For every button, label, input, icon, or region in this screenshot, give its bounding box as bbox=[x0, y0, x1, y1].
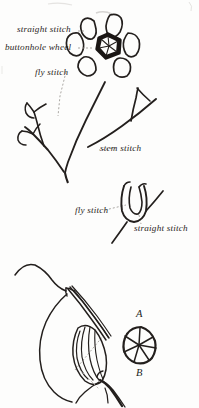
label-marker-a: A bbox=[136, 309, 143, 320]
loop-outer bbox=[121, 186, 146, 222]
thread-tail bbox=[15, 264, 66, 291]
label-straight-stitch-top: straight stitch bbox=[17, 25, 71, 34]
petal bbox=[123, 33, 139, 57]
petal bbox=[78, 57, 96, 76]
needle-shaft-a bbox=[68, 289, 106, 340]
straight-stitch-tail bbox=[112, 222, 127, 243]
stitch-diagram-page: straight stitch buttonhole wheel fly sti… bbox=[0, 0, 199, 408]
label-fly-stitch-top: fly stitch bbox=[35, 68, 68, 77]
label-straight-stitch-mid: straight stitch bbox=[134, 224, 188, 233]
fly-arm2-loop bbox=[18, 131, 26, 145]
label-fly-stitch-mid: fly stitch bbox=[75, 206, 108, 215]
stem-continuation bbox=[65, 173, 68, 183]
fly-arm-left bbox=[27, 103, 34, 112]
buttonhole-wheel-flower bbox=[66, 14, 139, 77]
branch-fork bbox=[137, 88, 150, 101]
label-marker-b: B bbox=[136, 368, 143, 379]
petal bbox=[81, 18, 96, 39]
scan-artifacts bbox=[2, 2, 192, 74]
stitch-illustration bbox=[0, 0, 199, 408]
thread-loop-left bbox=[40, 294, 72, 402]
chain-line-2 bbox=[81, 327, 93, 380]
needle-lower-shaft bbox=[100, 380, 122, 406]
needle-and-thread-detail bbox=[15, 264, 125, 407]
stem-stitch-branch bbox=[65, 82, 156, 173]
fly-stitch-sprig bbox=[18, 103, 64, 172]
fly-stitch-loop-detail bbox=[112, 182, 163, 243]
loop-cap-left bbox=[124, 182, 130, 186]
label-stem-stitch: stem stitch bbox=[100, 144, 141, 153]
buttonhole-wheel-center bbox=[97, 34, 120, 58]
loop-inner bbox=[129, 187, 142, 214]
thread-lower-drop bbox=[105, 388, 108, 403]
chain-line-3 bbox=[89, 327, 100, 380]
buttonhole-wheel-detail bbox=[123, 327, 156, 363]
loop-tail bbox=[146, 191, 163, 211]
upper-branch bbox=[88, 99, 156, 147]
petal bbox=[114, 58, 131, 77]
leader-fly-stitch bbox=[58, 72, 66, 116]
main-stem bbox=[65, 82, 105, 173]
label-buttonhole-wheel: buttonhole wheel bbox=[5, 43, 71, 52]
fly-arm-right bbox=[34, 104, 46, 112]
